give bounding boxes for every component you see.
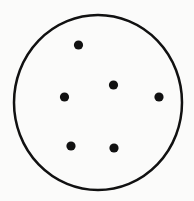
dot-diagram xyxy=(0,0,194,201)
background xyxy=(0,0,194,201)
dot-4 xyxy=(154,92,163,101)
dot-3 xyxy=(60,92,69,101)
dot-2 xyxy=(109,80,118,89)
dot-1 xyxy=(74,40,83,49)
dot-5 xyxy=(66,141,75,150)
dot-6 xyxy=(109,143,118,152)
